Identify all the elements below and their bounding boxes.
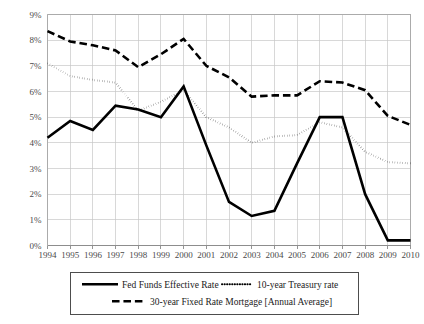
- x-axis-tick-label: 2004: [265, 250, 284, 260]
- y-axis-tick-label: 6%: [30, 87, 43, 97]
- y-axis-tick-label: 4%: [30, 138, 43, 148]
- x-axis-tick-label: 1999: [152, 250, 171, 260]
- line-chart: 0%1%2%3%4%5%6%7%8%9% 1994199519961997199…: [0, 0, 424, 324]
- x-axis-tick-labels: 1994199519961997199819992000200120022003…: [39, 250, 421, 260]
- y-axis-tick-label: 5%: [30, 112, 43, 122]
- x-axis-tick-label: 1996: [84, 250, 103, 260]
- x-axis-tick-label: 1997: [107, 250, 126, 260]
- x-axis-tick-label: 2008: [356, 250, 375, 260]
- x-axis-tick-label: 2007: [333, 250, 352, 260]
- legend-label-2: 30-year Fixed Rate Mortgage [Annual Aver…: [150, 297, 332, 307]
- legend-label-0: Fed Funds Effective Rate: [122, 280, 219, 290]
- y-axis-tick-label: 9%: [30, 10, 43, 20]
- x-axis-tick-label: 2000: [175, 250, 194, 260]
- chart-page: 0%1%2%3%4%5%6%7%8%9% 1994199519961997199…: [0, 0, 424, 324]
- x-axis-tick-label: 2001: [197, 250, 215, 260]
- x-axis-tick-label: 1995: [61, 250, 80, 260]
- y-axis-tick-label: 3%: [30, 164, 43, 174]
- x-axis-tick-label: 1998: [129, 250, 148, 260]
- x-axis-tick-label: 2005: [288, 250, 307, 260]
- x-axis-tick-label: 2003: [243, 250, 262, 260]
- y-axis-tick-label: 2%: [30, 189, 43, 199]
- chart-legend: Fed Funds Effective Rate10-year Treasury…: [71, 273, 359, 315]
- x-axis-tick-label: 2002: [220, 250, 238, 260]
- x-axis-tick-label: 1994: [39, 250, 58, 260]
- x-axis-tick-label: 2010: [402, 250, 421, 260]
- legend-label-1: 10-year Treasury rate: [257, 280, 338, 290]
- x-axis-tick-label: 2006: [311, 250, 330, 260]
- y-axis-tick-label: 7%: [30, 61, 43, 71]
- x-axis-tick-label: 2009: [379, 250, 398, 260]
- y-axis-tick-label: 8%: [30, 35, 43, 45]
- y-axis-tick-label: 1%: [30, 215, 43, 225]
